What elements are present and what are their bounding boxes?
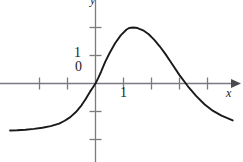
origin-label-0: 0 (75, 60, 82, 74)
y-axis-tick-label-1: 1 (74, 46, 81, 60)
x-axis-tick-label-1: 1 (120, 86, 127, 100)
function-plot-figure: 1 0 1 x y (0, 0, 243, 162)
x-axis-name-label: x (226, 87, 231, 99)
plot-canvas (0, 0, 243, 162)
y-axis-name-label: y (90, 0, 95, 6)
function-curve (10, 28, 233, 131)
x-axis-arrow-icon (231, 79, 241, 88)
